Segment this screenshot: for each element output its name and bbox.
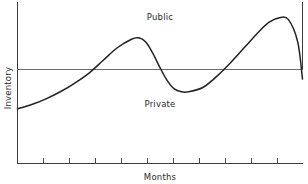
region-label-public: Public (147, 12, 173, 22)
y-axis-title: Inventory (3, 67, 13, 109)
inventory-months-line-chart: Public Private Months Inventory (0, 0, 308, 184)
x-axis-title: Months (144, 172, 177, 182)
chart-container: Public Private Months Inventory (0, 0, 308, 184)
chart-background (0, 0, 308, 184)
region-label-private: Private (144, 99, 175, 109)
